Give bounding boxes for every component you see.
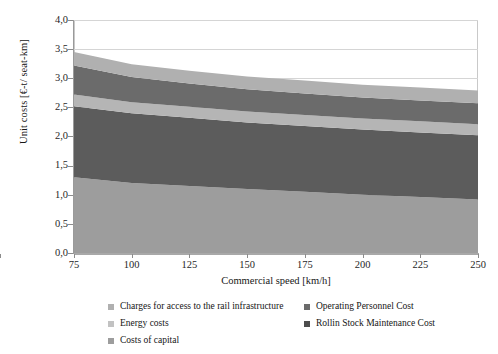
legend-label: Operating Personnel Cost [316, 301, 414, 312]
square-marker-icon [108, 321, 114, 327]
x-tick-label-225: 225 [400, 259, 440, 270]
y-tick-label-4-0: 4,0 [38, 15, 68, 25]
y-axis-title: Unit costs [€-t/ seat-km] [18, 17, 29, 167]
x-axis-title: Commercial speed [km/h] [74, 275, 478, 286]
y-tick-label-0-5: 0,5 [38, 219, 68, 229]
y-tick-label-0-0: 0,0 [38, 248, 68, 258]
stacked-area-series [74, 20, 478, 253]
x-axis-line [74, 253, 479, 255]
x-tick-label-200: 200 [343, 259, 383, 270]
x-tick-label-175: 175 [285, 259, 325, 270]
x-tick-mark-175 [305, 254, 306, 258]
x-tick-label-100: 100 [112, 259, 152, 270]
square-marker-icon [304, 304, 310, 310]
x-tick-mark-125 [189, 254, 190, 258]
x-tick-label-250: 250 [458, 259, 498, 270]
x-tick-label-150: 150 [227, 259, 267, 270]
x-tick-mark-225 [420, 254, 421, 258]
y-tick-label-3-5: 3,5 [38, 44, 68, 54]
chart-figure: 4,0 3,5 3,0 2,5 2,0 1,5 1,0 0,5 0,0 Unit… [0, 0, 498, 354]
x-tick-label-75: 75 [54, 259, 94, 270]
legend-item-operating-personnel-cost[interactable]: Operating Personnel Cost [304, 298, 484, 315]
x-tick-mark-150 [247, 254, 248, 258]
chart-legend: Charges for access to the rail infrastru… [108, 298, 480, 348]
plot-area [74, 20, 478, 253]
y-tick-label-2-5: 2,5 [38, 102, 68, 112]
legend-item-rolling-stock-maintenance-cost[interactable]: Rollin Stock Maintenance Cost [304, 315, 484, 332]
x-tick-mark-100 [132, 254, 133, 258]
y-tick-label-3-0: 3,0 [38, 73, 68, 83]
x-tick-label-125: 125 [169, 259, 209, 270]
x-tick-mark-250 [478, 254, 479, 258]
y-tick-label-2-0: 2,0 [38, 131, 68, 141]
legend-item-charges-for-access[interactable]: Charges for access to the rail infrastru… [108, 298, 298, 315]
legend-column-left: Charges for access to the rail infrastru… [108, 298, 298, 349]
legend-item-costs-of-capital[interactable]: Costs of capital [108, 332, 298, 349]
square-marker-icon [108, 304, 114, 310]
y-axis-tick-labels: 4,0 3,5 3,0 2,5 2,0 1,5 1,0 0,5 0,0 [32, 0, 68, 354]
y-tick-label-1-5: 1,5 [38, 160, 68, 170]
legend-label: Costs of capital [120, 335, 179, 346]
legend-label: Rollin Stock Maintenance Cost [316, 318, 435, 329]
y-tick-label-1-0: 1,0 [38, 190, 68, 200]
square-marker-icon [304, 321, 310, 327]
x-tick-mark-spacer [0, 254, 1, 258]
legend-item-energy-costs[interactable]: Energy costs [108, 315, 298, 332]
x-tick-mark-200 [363, 254, 364, 258]
legend-label: Charges for access to the rail infrastru… [120, 301, 283, 312]
legend-label: Energy costs [120, 318, 169, 329]
legend-column-right: Operating Personnel Cost Rollin Stock Ma… [304, 298, 484, 332]
square-marker-icon [108, 338, 114, 344]
x-tick-mark-75 [74, 254, 75, 258]
